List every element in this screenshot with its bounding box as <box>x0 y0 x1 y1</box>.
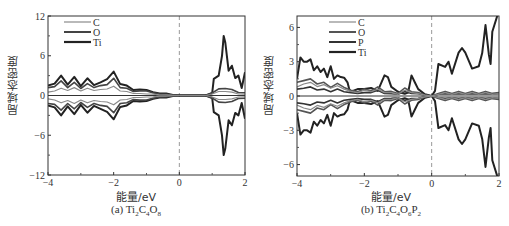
x-axis-label-b: 能量/eV <box>351 188 431 204</box>
legend: COPTi <box>329 17 367 58</box>
y-tick-label: 3 <box>289 56 294 67</box>
y-tick-label: 6 <box>40 50 45 61</box>
legend: COTi <box>64 17 102 48</box>
caption-b: (b) Ti2C4O6P2 <box>321 203 461 218</box>
x-tick-label: −2 <box>108 177 119 188</box>
x-tick-label: −4 <box>292 178 303 189</box>
x-tick-label: −4 <box>43 177 54 188</box>
x-axis-label-a: 能量/eV <box>96 188 176 204</box>
x-tick-label: 2 <box>243 177 248 188</box>
caption-a: (a) Ti2C4O8 <box>76 203 196 218</box>
series-ti-up <box>48 36 245 96</box>
chart-panel-b: −6−3036−4−202COPTi 局域态密度 能量/eV (b) Ti2C4… <box>255 0 509 226</box>
y-tick-label: 12 <box>35 11 45 22</box>
y-tick-label: −3 <box>283 125 294 136</box>
x-tick-label: 0 <box>177 177 182 188</box>
y-axis-label-b: 局域态密度 <box>262 55 278 115</box>
y-tick-label: 0 <box>40 90 45 101</box>
series-ti-down <box>297 96 499 182</box>
plot-area: −6−3036−4−202COPTi <box>283 10 501 189</box>
legend-label-ti: Ti <box>358 47 367 58</box>
x-tick-label: 2 <box>497 178 502 189</box>
series-ti-up <box>297 10 499 96</box>
series-ti-down <box>48 96 245 156</box>
y-tick-label: 0 <box>289 91 294 102</box>
legend-label-ti: Ti <box>93 37 102 48</box>
y-tick-label: −6 <box>283 159 294 170</box>
y-axis-label-a: 局域态密度 <box>6 55 22 115</box>
plot-area: −12−60612−4−202COTi <box>29 11 247 189</box>
chart-panel-a: −12−60612−4−202COTi 局域态密度 能量/eV (a) Ti2C… <box>0 0 255 226</box>
y-tick-label: 6 <box>289 22 294 33</box>
y-tick-label: −6 <box>34 130 45 141</box>
